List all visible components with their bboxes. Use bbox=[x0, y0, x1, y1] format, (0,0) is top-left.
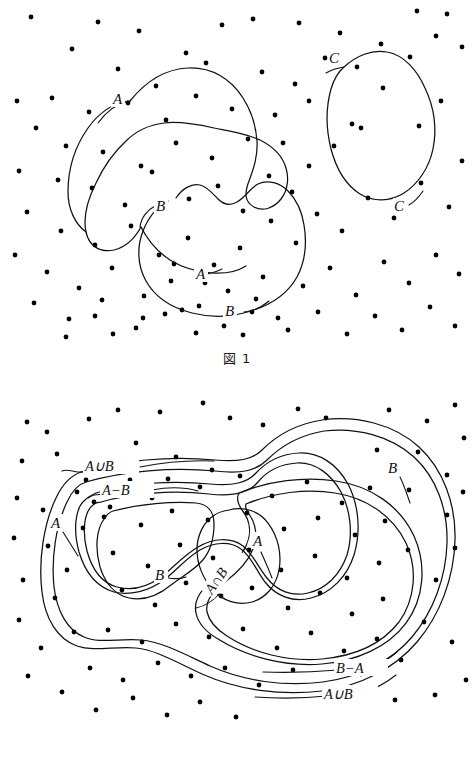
element-dot bbox=[345, 576, 350, 581]
label-fig2-BmA: B−A bbox=[336, 660, 364, 676]
element-dot bbox=[340, 229, 345, 234]
element-dot bbox=[461, 490, 466, 495]
element-dot bbox=[39, 646, 44, 651]
element-dot bbox=[307, 99, 312, 104]
element-dot bbox=[153, 603, 158, 608]
element-dot bbox=[189, 674, 194, 679]
element-dot bbox=[178, 543, 183, 548]
label-fig1-A-bottom: A bbox=[195, 266, 206, 282]
label-fig2-A-mid: A bbox=[252, 533, 263, 549]
figure-1-labels: A B A B C C bbox=[111, 50, 408, 319]
element-dot bbox=[340, 501, 345, 506]
element-dot bbox=[407, 488, 412, 493]
element-dot bbox=[226, 289, 231, 294]
element-dot bbox=[75, 490, 80, 495]
element-dot bbox=[373, 314, 378, 319]
element-dot bbox=[368, 486, 373, 491]
element-dot bbox=[174, 622, 179, 627]
figure-1-caption: 図 1 bbox=[0, 348, 474, 367]
element-dot bbox=[260, 70, 265, 75]
element-dot bbox=[273, 113, 278, 118]
element-dot bbox=[433, 693, 438, 698]
element-dot bbox=[116, 408, 121, 413]
label-fig2-B-mid: B bbox=[155, 567, 164, 583]
element-dot bbox=[129, 224, 134, 229]
element-dot bbox=[87, 110, 92, 115]
element-dot bbox=[447, 205, 452, 210]
element-dot bbox=[228, 416, 233, 421]
element-dot bbox=[194, 331, 199, 336]
element-dot bbox=[93, 314, 98, 319]
element-dot bbox=[445, 12, 450, 17]
element-dot bbox=[416, 450, 421, 455]
element-dot bbox=[222, 324, 227, 329]
region-curve-B-inner-arc bbox=[141, 227, 246, 273]
element-dot bbox=[198, 485, 203, 490]
element-dot bbox=[139, 523, 144, 528]
element-dot bbox=[106, 628, 111, 633]
element-dot bbox=[276, 316, 281, 321]
leader-line-C-bottom bbox=[409, 191, 423, 205]
label-fig1-B-left: B bbox=[156, 198, 165, 214]
element-dot bbox=[96, 20, 101, 25]
element-dot bbox=[350, 122, 355, 127]
element-dot bbox=[355, 65, 360, 70]
element-dot bbox=[166, 477, 171, 482]
element-dot bbox=[407, 281, 412, 286]
element-dot bbox=[462, 436, 467, 441]
element-dot bbox=[238, 246, 243, 251]
figure-1-dot-field bbox=[13, 9, 465, 340]
label-fig2-B-right: B bbox=[388, 460, 397, 476]
element-dot bbox=[204, 61, 209, 66]
element-dot bbox=[111, 332, 116, 337]
element-dot bbox=[184, 581, 189, 586]
element-dot bbox=[59, 229, 64, 234]
element-dot bbox=[230, 107, 235, 112]
element-dot bbox=[17, 169, 22, 174]
element-dot bbox=[88, 666, 93, 671]
element-dot bbox=[15, 99, 20, 104]
element-dot bbox=[241, 209, 246, 214]
element-dot bbox=[434, 253, 439, 258]
element-dot bbox=[26, 674, 31, 679]
element-dot bbox=[445, 473, 450, 478]
element-dot bbox=[393, 698, 398, 703]
element-dot bbox=[246, 137, 251, 142]
element-dot bbox=[198, 700, 203, 705]
element-dot bbox=[377, 561, 382, 566]
leader-line-B-left bbox=[140, 206, 155, 227]
element-dot bbox=[381, 86, 386, 91]
element-dot bbox=[250, 586, 255, 591]
element-dot bbox=[186, 236, 191, 241]
element-dot bbox=[307, 164, 312, 169]
element-dot bbox=[45, 430, 50, 435]
element-dot bbox=[17, 618, 22, 623]
element-dot bbox=[238, 474, 243, 479]
leader-line-AuB-top-right bbox=[140, 461, 214, 467]
element-dot bbox=[281, 141, 286, 146]
element-dot bbox=[338, 31, 343, 36]
leader-line-B-bottom bbox=[244, 301, 269, 312]
element-dot bbox=[13, 253, 18, 258]
element-dot bbox=[156, 661, 161, 666]
element-dot bbox=[67, 317, 72, 322]
element-dot bbox=[169, 279, 174, 284]
element-dot bbox=[32, 301, 37, 306]
label-fig1-A-top: A bbox=[112, 91, 123, 107]
element-dot bbox=[194, 94, 199, 99]
element-dot bbox=[293, 82, 298, 87]
element-dot bbox=[257, 683, 262, 688]
element-dot bbox=[197, 304, 202, 309]
element-dot bbox=[375, 448, 380, 453]
element-dot bbox=[121, 678, 126, 683]
element-dot bbox=[60, 690, 65, 695]
element-dot bbox=[158, 410, 163, 415]
element-dot bbox=[275, 646, 280, 651]
element-dot bbox=[345, 332, 350, 337]
element-dot bbox=[139, 164, 144, 169]
element-dot bbox=[87, 417, 92, 422]
element-dot bbox=[400, 328, 405, 333]
element-dot bbox=[269, 219, 274, 224]
element-dot bbox=[291, 668, 296, 673]
label-fig1-C-bottom: C bbox=[394, 198, 405, 214]
